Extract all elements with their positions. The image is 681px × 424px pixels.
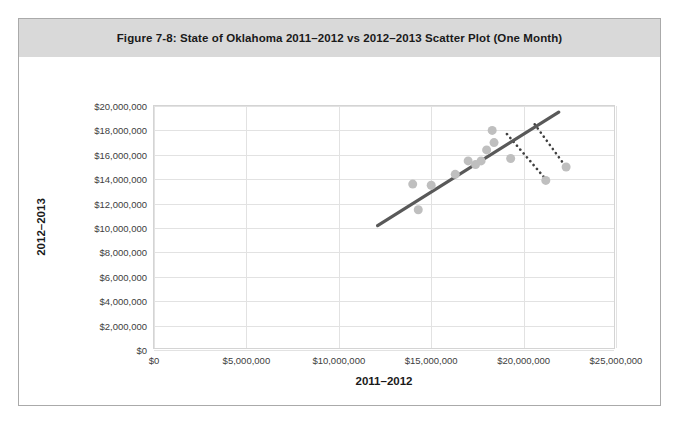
trendline	[378, 112, 559, 225]
y-tick-label: $20,000,000	[94, 101, 147, 112]
x-tick-label: $10,000,000	[312, 355, 365, 366]
scatter-point	[414, 205, 423, 214]
x-tick-label: $20,000,000	[497, 355, 550, 366]
gridline-horizontal	[154, 350, 614, 351]
figure-caption-bar: Figure 7-8: State of Oklahoma 2011–2012 …	[19, 19, 660, 57]
y-tick-label: $8,000,000	[99, 247, 147, 258]
x-tick-label: $0	[149, 355, 160, 366]
y-tick-label: $12,000,000	[94, 198, 147, 209]
scatter-point	[541, 176, 550, 185]
y-tick-label: $16,000,000	[94, 149, 147, 160]
y-tick-label: $14,000,000	[94, 174, 147, 185]
scatter-point	[490, 138, 499, 147]
scatter-point	[488, 126, 497, 135]
y-tick-label: $0	[136, 345, 147, 356]
scatter-point	[408, 180, 417, 189]
scatter-point	[427, 181, 436, 190]
plot-graphics	[154, 106, 616, 350]
y-tick-label: $6,000,000	[99, 271, 147, 282]
data-point-markers	[408, 126, 570, 214]
scatter-point	[562, 163, 571, 172]
dotted-pointer-line	[535, 124, 565, 164]
y-tick-label: $4,000,000	[99, 296, 147, 307]
gridline-vertical	[616, 106, 617, 348]
scatter-point	[477, 156, 486, 165]
annotation-pointers	[507, 124, 564, 179]
scatter-chart: 2012–2013 2011–2012 $0$2,000,000$4,000,0…	[19, 57, 660, 405]
x-tick-label: $15,000,000	[405, 355, 458, 366]
x-tick-label: $5,000,000	[223, 355, 271, 366]
y-axis-title: 2012–2013	[35, 198, 47, 256]
scatter-point	[506, 154, 515, 163]
scatter-point	[451, 170, 460, 179]
trendline-segment	[378, 112, 559, 225]
x-axis-title: 2011–2012	[356, 375, 413, 387]
x-tick-label: $25,000,000	[590, 355, 643, 366]
figure-caption-text: Figure 7-8: State of Oklahoma 2011–2012 …	[117, 32, 563, 44]
figure-frame: Figure 7-8: State of Oklahoma 2011–2012 …	[18, 18, 661, 406]
y-tick-label: $2,000,000	[99, 320, 147, 331]
y-tick-label: $10,000,000	[94, 223, 147, 234]
plot-area: $0$2,000,000$4,000,000$6,000,000$8,000,0…	[153, 105, 615, 349]
y-tick-label: $18,000,000	[94, 125, 147, 136]
scatter-point	[482, 145, 491, 154]
